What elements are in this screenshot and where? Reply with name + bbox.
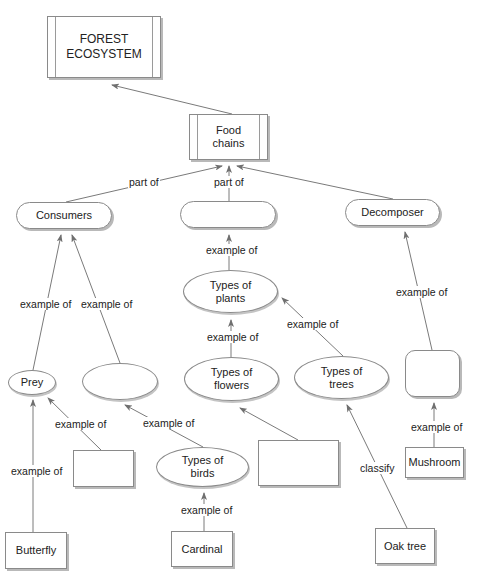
edge-label-classify: classify: [359, 462, 395, 474]
edge-label-birds-blank: example of: [142, 417, 195, 429]
node-consumers: Consumers: [16, 202, 112, 229]
node-oak-tree-label: Oak tree: [384, 540, 426, 553]
node-forest-ecosystem: FOREST ECOSYSTEM: [47, 16, 161, 78]
node-cardinal: Cardinal: [171, 531, 233, 567]
edge-label-part-of-left: part of: [128, 176, 160, 188]
node-types-of-plants: Types of plants: [183, 270, 278, 313]
node-flower-example-blank: [258, 440, 339, 486]
edge-label-cardinal-birds: example of: [180, 504, 233, 516]
node-decomposer-label: Decomposer: [361, 206, 423, 219]
edge-label-flowers-plants: example of: [206, 331, 259, 343]
node-producers-blank: [180, 201, 276, 228]
node-cardinal-label: Cardinal: [182, 543, 223, 556]
node-predator-blank: [82, 363, 158, 400]
node-types-of-birds: Types of birds: [156, 447, 249, 487]
node-decomposer-blank: [405, 350, 460, 397]
node-mushroom: Mushroom: [405, 447, 464, 478]
node-prey-label: Prey: [21, 376, 44, 389]
node-types-of-trees-line2: trees: [329, 378, 353, 391]
node-butterfly: Butterfly: [5, 532, 67, 569]
node-decomposer: Decomposer: [345, 199, 440, 226]
node-types-of-birds-line2: birds: [191, 467, 215, 480]
node-oak-tree: Oak tree: [375, 528, 435, 564]
edge-label-prey-consumers: example of: [19, 298, 72, 310]
node-forest-ecosystem-line2: ECOSYSTEM: [66, 47, 141, 62]
edge-label-butterfly-prey: example of: [10, 465, 63, 477]
edge-label-rect-prey: example of: [54, 418, 107, 430]
edge-label-blank-decomposer: example of: [395, 286, 448, 298]
node-types-of-flowers-line1: Types of: [211, 366, 253, 379]
node-types-of-birds-line1: Types of: [182, 454, 224, 467]
node-types-of-flowers: Types of flowers: [184, 357, 279, 401]
edge-label-blank-consumers: example of: [80, 298, 133, 310]
node-food-chains-line1: Food: [216, 124, 241, 137]
edge-label-part-of-mid: part of: [213, 176, 245, 188]
edge-label-mushroom-blank: example of: [410, 421, 463, 433]
node-types-of-plants-line1: Types of: [210, 279, 252, 292]
node-types-of-trees: Types of trees: [294, 356, 389, 399]
concept-map: FOREST ECOSYSTEM Food chains Consumers D…: [0, 0, 477, 578]
node-consumers-label: Consumers: [36, 209, 92, 222]
node-types-of-plants-line2: plants: [216, 292, 245, 305]
node-butterfly-label: Butterfly: [16, 544, 56, 557]
node-mushroom-label: Mushroom: [409, 456, 461, 469]
node-types-of-trees-line1: Types of: [321, 365, 363, 378]
node-types-of-flowers-line2: flowers: [214, 379, 249, 392]
edge-label-plants-blank: example of: [205, 244, 258, 256]
node-prey: Prey: [8, 370, 56, 395]
node-prey-example-blank: [73, 450, 134, 487]
node-forest-ecosystem-line1: FOREST: [80, 32, 129, 47]
node-food-chains-line2: chains: [213, 137, 245, 150]
node-food-chains: Food chains: [189, 114, 268, 160]
edge-label-trees-plants: example of: [286, 318, 339, 330]
